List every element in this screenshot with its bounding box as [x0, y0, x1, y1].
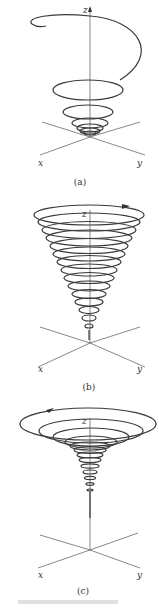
- z-label: z: [82, 5, 88, 15]
- caption-c: (c): [77, 586, 89, 596]
- helix-curve-a: [31, 15, 141, 135]
- helix-curve-b: [34, 205, 144, 340]
- helix-curve-c: [20, 408, 156, 518]
- x-axis: [40, 137, 90, 155]
- panel-b: z x y (b): [34, 204, 145, 392]
- figure-footer: [18, 600, 118, 604]
- z-label: z: [81, 209, 87, 219]
- y-axis: [90, 137, 145, 155]
- z-label: z: [81, 416, 87, 426]
- y-label: y: [136, 158, 143, 168]
- x-label: x: [38, 570, 43, 580]
- caption-a: (a): [74, 177, 86, 187]
- figure-canvas: z x y (a) z x y: [0, 0, 159, 608]
- y-label: y: [136, 364, 143, 374]
- panel-a: z x y (a): [31, 5, 145, 187]
- x-label: x: [38, 158, 43, 168]
- panel-c: z x y (c): [20, 408, 156, 596]
- y-label: y: [136, 570, 143, 580]
- x-label: x: [38, 364, 43, 374]
- z-axis-arrow-icon: [88, 6, 92, 12]
- caption-b: (b): [83, 382, 96, 392]
